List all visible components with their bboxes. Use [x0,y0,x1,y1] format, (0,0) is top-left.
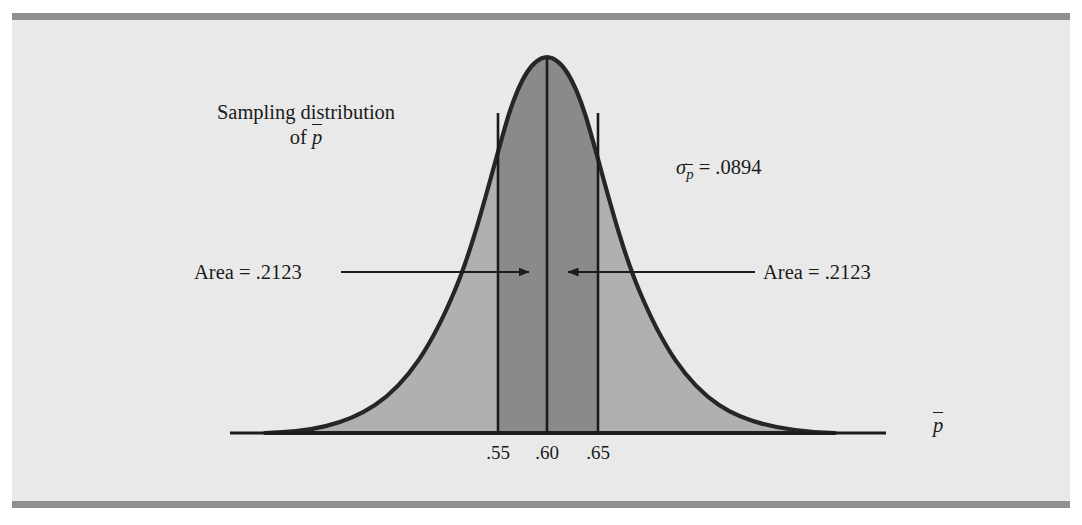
tick-label-065: .65 [568,442,628,464]
standard-deviation-label: σp = .0894 [676,155,761,183]
figure-root: Sampling distribution of p σp = .0894 Ar… [0,0,1082,525]
area-label-left: Area = .2123 [194,260,302,285]
sigma-subscript: p [686,165,693,183]
caption-variable: p [312,125,322,150]
x-axis-variable-label: p [933,413,943,438]
area-label-right: Area = .2123 [763,260,871,285]
caption-line-2-prefix: of [290,126,307,148]
distribution-caption: Sampling distribution of p [166,100,446,150]
caption-line-1: Sampling distribution [217,101,395,123]
sigma-value: = .0894 [699,156,762,178]
sigma-symbol: σ [676,156,686,178]
